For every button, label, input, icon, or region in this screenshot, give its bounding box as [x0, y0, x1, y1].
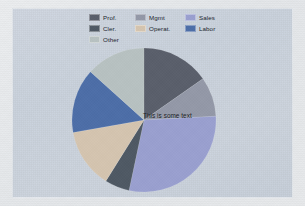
legend-label: Other	[103, 35, 119, 44]
legend-label: Labor	[199, 24, 215, 33]
legend-swatch-icon	[185, 14, 196, 21]
legend-item-labor[interactable]: Labor	[185, 24, 233, 33]
legend-swatch-icon	[89, 36, 100, 43]
legend-swatch-icon	[89, 25, 100, 32]
legend-item-other[interactable]: Other	[89, 35, 135, 44]
legend-label: Sales	[199, 13, 215, 22]
pie-chart: This is some text	[71, 47, 217, 193]
legend-swatch-icon	[185, 25, 196, 32]
legend-item-mgmt[interactable]: Mgmt	[135, 13, 185, 22]
legend-item-sales[interactable]: Sales	[185, 13, 233, 22]
legend-swatch-icon	[89, 14, 100, 21]
legend-swatch-icon	[135, 25, 146, 32]
legend-label: Prof.	[103, 13, 117, 22]
legend-label: Mgmt	[149, 13, 165, 22]
chart-panel: Prof.MgmtSalesCler.Operat.LaborOther Thi…	[12, 8, 293, 198]
pie-chart-svg	[71, 47, 217, 193]
legend-item-operat[interactable]: Operat.	[135, 24, 185, 33]
chart-legend: Prof.MgmtSalesCler.Operat.LaborOther	[89, 13, 233, 44]
pie-center-annotation: This is some text	[143, 112, 192, 119]
screenshot-canvas: Prof.MgmtSalesCler.Operat.LaborOther Thi…	[0, 0, 305, 206]
legend-label: Operat.	[149, 24, 170, 33]
legend-item-cler[interactable]: Cler.	[89, 24, 135, 33]
legend-item-prof[interactable]: Prof.	[89, 13, 135, 22]
legend-swatch-icon	[135, 14, 146, 21]
legend-label: Cler.	[103, 24, 116, 33]
